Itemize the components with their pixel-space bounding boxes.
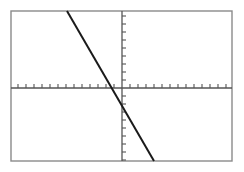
linear-function-graph	[0, 0, 244, 172]
coordinate-plane-plot	[0, 0, 244, 172]
